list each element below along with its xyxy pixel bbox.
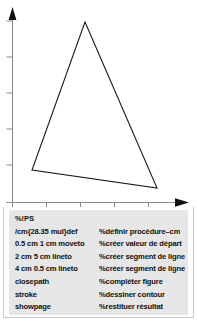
plot-svg xyxy=(3,3,194,207)
code-line: closepath %compléter figure xyxy=(9,276,188,289)
code-comment: %créer segment de ligne xyxy=(99,263,185,276)
code-text: 0.5 cm 1 cm moveto xyxy=(15,238,99,251)
code-line: /cm{28.35 mul}def %définir procédure–cm xyxy=(9,226,188,239)
code-line: 2 cm 5 cm lineto %créer segment de ligne xyxy=(9,251,188,264)
code-text: %!PS xyxy=(15,213,99,226)
code-comment: %compléter figure xyxy=(99,276,163,289)
code-line: stroke %dessiner contour xyxy=(9,289,188,302)
code-comment: %définir procédure–cm xyxy=(99,226,180,239)
code-comment: %créer valeur de départ xyxy=(99,238,182,251)
plot-area xyxy=(3,3,194,207)
code-line: 4 cm 0.5 cm lineto %créer segment de lig… xyxy=(9,263,188,276)
code-text: showpage xyxy=(15,301,99,314)
x-axis-arrow-icon xyxy=(175,198,189,207)
code-line: %!PS xyxy=(9,213,188,226)
code-text: /cm{28.35 mul}def xyxy=(15,226,99,239)
code-listing: %!PS /cm{28.35 mul}def %définir procédur… xyxy=(9,210,188,315)
code-text: stroke xyxy=(15,289,99,302)
code-text: 4 cm 0.5 cm lineto xyxy=(15,263,99,276)
code-line: 0.5 cm 1 cm moveto %créer valeur de dépa… xyxy=(9,238,188,251)
code-comment: %dessiner contour xyxy=(99,289,165,302)
code-comment: %créer segment de ligne xyxy=(99,251,185,264)
code-line: showpage %restituer résultat xyxy=(9,301,188,314)
code-text: closepath xyxy=(15,276,99,289)
triangle-path xyxy=(32,22,157,188)
y-axis-arrow-icon xyxy=(9,7,17,20)
code-comment: %restituer résultat xyxy=(99,301,163,314)
code-text: 2 cm 5 cm lineto xyxy=(15,251,99,264)
figure-page: %!PS /cm{28.35 mul}def %définir procédur… xyxy=(0,0,197,321)
